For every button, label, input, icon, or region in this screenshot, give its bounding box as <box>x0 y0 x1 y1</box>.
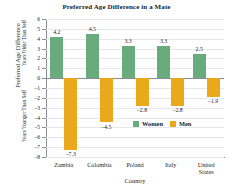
y-tick-label: 3 <box>0 46 40 52</box>
legend-label-men: Men <box>179 120 191 127</box>
legend-swatch-women <box>133 121 139 127</box>
bar-value-label-men: –2.8 <box>165 107 191 113</box>
y-tick-label: –6 <box>0 134 40 140</box>
gridline <box>46 157 224 158</box>
y-tick-label: –2 <box>0 95 40 101</box>
x-category-label: UnitedStates <box>184 161 228 176</box>
legend-item-women: Women <box>133 120 163 127</box>
x-category-label-line: United <box>184 161 228 168</box>
gridline <box>46 29 224 30</box>
bar-women <box>122 46 135 79</box>
y-tick-label: 2 <box>0 55 40 61</box>
bar-men <box>100 78 113 122</box>
bar-value-label-women: 2.5 <box>186 46 212 52</box>
y-tick-label: 6 <box>0 16 40 22</box>
y-tick-label: –1 <box>0 85 40 91</box>
y-tick-label: –7 <box>0 144 40 150</box>
bar-value-label-men: –2.8 <box>129 107 155 113</box>
y-tick-label: 5 <box>0 26 40 32</box>
bar-value-label-women: 4.5 <box>79 26 105 32</box>
chart-legend: WomenMen <box>133 120 191 127</box>
y-tick-label: –3 <box>0 105 40 111</box>
bar-women <box>86 34 99 78</box>
bar-men <box>64 78 77 150</box>
legend-label-women: Women <box>142 120 163 127</box>
x-category-label-line: States <box>184 168 228 175</box>
bar-women <box>157 46 170 79</box>
bar-value-label-men: –1.9 <box>200 98 226 104</box>
legend-item-men: Men <box>170 120 191 127</box>
bar-men <box>136 78 149 106</box>
y-tick-label: –4 <box>0 115 40 121</box>
chart-container: Preferred Age Difference in a Mate Prefe… <box>0 0 233 192</box>
bar-value-label-men: –7.3 <box>58 151 84 157</box>
legend-swatch-men <box>170 121 176 127</box>
y-tick-label: 0 <box>0 75 40 81</box>
bar-men <box>207 78 220 97</box>
bar-women <box>50 37 63 78</box>
chart-title: Preferred Age Difference in a Mate <box>0 3 233 11</box>
y-tick-label: –8 <box>0 154 40 160</box>
plot-area: 4.2–7.34.5–4.53.3–2.83.3–2.82.5–1.9 <box>46 19 224 157</box>
y-tick-label: 1 <box>0 65 40 71</box>
x-axis-title: Country <box>40 177 230 184</box>
bar-men <box>171 78 184 106</box>
bar-value-label-women: 3.3 <box>151 38 177 44</box>
bar-women <box>193 54 206 79</box>
y-tick-label: –5 <box>0 124 40 130</box>
bar-value-label-men: –4.5 <box>93 124 119 130</box>
y-tick-label: 4 <box>0 36 40 42</box>
gridline <box>46 19 224 20</box>
bar-value-label-women: 4.2 <box>44 29 70 35</box>
bar-value-label-women: 3.3 <box>115 38 141 44</box>
